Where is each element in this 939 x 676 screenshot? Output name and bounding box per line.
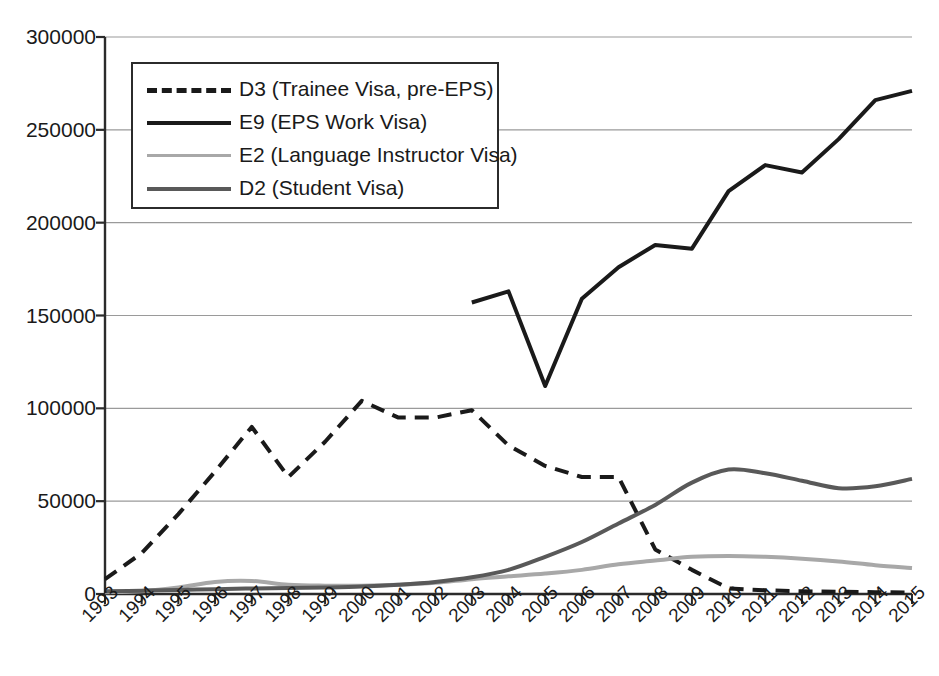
- x-tick-label-2007: 2007: [592, 582, 635, 625]
- x-tick-label-2005: 2005: [518, 582, 561, 625]
- legend-label: D2 (Student Visa): [239, 177, 404, 198]
- legend-label: D3 (Trainee Visa, pre-EPS): [239, 78, 493, 99]
- x-tick-label-2000: 2000: [335, 582, 378, 625]
- x-tick-label-2006: 2006: [555, 582, 598, 625]
- x-tick-label-1995: 1995: [151, 582, 194, 625]
- legend-item-3[interactable]: E2 (Language Instructor Visa): [147, 139, 518, 169]
- legend-item-4[interactable]: D2 (Student Visa): [147, 172, 404, 202]
- x-tick-label-1997: 1997: [225, 582, 268, 625]
- x-tick-label-2014: 2014: [848, 582, 891, 625]
- legend-label: E2 (Language Instructor Visa): [239, 144, 518, 165]
- legend-swatch-icon: [147, 111, 231, 131]
- x-tick-label-2015: 2015: [885, 582, 928, 625]
- x-tick-label-1996: 1996: [188, 582, 231, 625]
- chart-legend: D3 (Trainee Visa, pre-EPS)E9 (EPS Work V…: [131, 62, 499, 209]
- x-tick-label-1998: 1998: [261, 582, 304, 625]
- x-tick-label-2001: 2001: [371, 582, 414, 625]
- legend-item-2[interactable]: E9 (EPS Work Visa): [147, 106, 427, 136]
- x-tick-label-2004: 2004: [482, 582, 525, 625]
- line-chart: 050000100000150000200000250000300000 199…: [0, 0, 939, 676]
- legend-swatch-icon: [147, 144, 231, 164]
- x-tick-label-2012: 2012: [775, 582, 818, 625]
- x-tick-label-1993: 1993: [78, 582, 121, 625]
- x-tick-label-2002: 2002: [408, 582, 451, 625]
- x-tick-label-1999: 1999: [298, 582, 341, 625]
- x-tick-label-2009: 2009: [665, 582, 708, 625]
- x-tick-label-2011: 2011: [738, 583, 780, 625]
- legend-item-1[interactable]: D3 (Trainee Visa, pre-EPS): [147, 73, 493, 103]
- legend-swatch-icon: [147, 177, 231, 197]
- x-tick-label-2008: 2008: [628, 582, 671, 625]
- legend-label: E9 (EPS Work Visa): [239, 111, 427, 132]
- x-tick-label-2003: 2003: [445, 582, 488, 625]
- x-tick-label-2010: 2010: [702, 582, 745, 625]
- x-tick-label-1994: 1994: [115, 582, 158, 625]
- legend-swatch-icon: [147, 78, 231, 98]
- x-tick-label-2013: 2013: [812, 582, 855, 625]
